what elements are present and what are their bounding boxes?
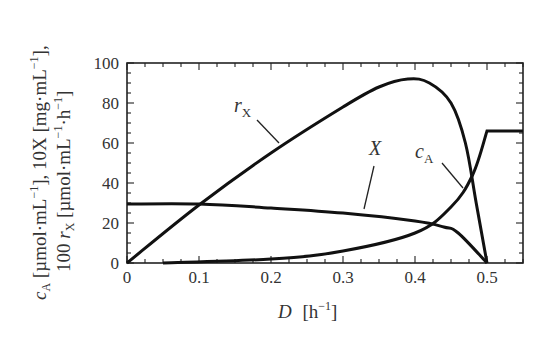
x-tick-0.1: 0.1 bbox=[188, 268, 209, 287]
x-annotation: X bbox=[368, 137, 382, 159]
y-tick-60: 60 bbox=[102, 134, 119, 153]
x-tick-0.4: 0.4 bbox=[404, 268, 426, 287]
x-tick-0.5: 0.5 bbox=[476, 268, 497, 287]
x-axis-title: D [h−1] bbox=[277, 299, 337, 322]
rx-annotation: rX bbox=[234, 94, 252, 120]
x-tick-0.3: 0.3 bbox=[332, 268, 353, 287]
plot-frame bbox=[127, 63, 523, 263]
svg-text:100 rX [µmol·mL−1·h−1]: 100 rX [µmol·mL−1·h−1] bbox=[51, 91, 77, 272]
x-tick-0.2: 0.2 bbox=[260, 268, 281, 287]
series-rx-line bbox=[127, 79, 487, 263]
y-tick-100: 100 bbox=[94, 54, 120, 73]
x-tick-labels: 0 0.1 0.2 0.3 0.4 0.5 bbox=[123, 268, 498, 287]
y-axis-title: cA [µmol·mL−1], 10X [mg·mL−1], 100 rX [µ… bbox=[27, 45, 77, 300]
svg-text:cA [µmol·mL−1], 10X [mg·mL−1],: cA [µmol·mL−1], 10X [mg·mL−1], bbox=[27, 45, 53, 300]
y-ticks bbox=[127, 63, 523, 263]
y-tick-40: 40 bbox=[102, 174, 119, 193]
x-ticks bbox=[127, 63, 523, 263]
y-tick-labels: 100 80 60 40 20 0 bbox=[94, 54, 120, 273]
series-x-line bbox=[127, 204, 487, 263]
chart: 100 80 60 40 20 0 0 0.1 0.2 0.3 0.4 0.5 … bbox=[0, 0, 553, 358]
x-tick-0: 0 bbox=[123, 268, 132, 287]
x-leader-line bbox=[364, 166, 374, 209]
y-tick-0: 0 bbox=[111, 254, 120, 273]
ca-annotation: cA bbox=[415, 140, 434, 166]
rx-leader-line bbox=[257, 120, 279, 143]
y-tick-80: 80 bbox=[102, 94, 119, 113]
ca-leader-line bbox=[442, 163, 463, 188]
y-tick-20: 20 bbox=[102, 214, 119, 233]
